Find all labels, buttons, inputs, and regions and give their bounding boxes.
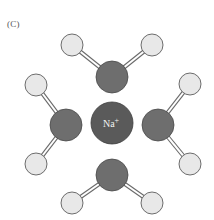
oxygen-atom xyxy=(50,109,82,141)
water-molecule-right xyxy=(142,73,201,175)
ion-charge: + xyxy=(115,116,120,125)
hydrogen-atom xyxy=(179,153,201,175)
hydrogen-atom xyxy=(179,73,201,95)
sodium-ion: Na+ xyxy=(91,102,133,144)
water-molecule-bottom xyxy=(61,159,163,214)
hydrogen-atom xyxy=(61,192,83,214)
hydrogen-atom xyxy=(25,153,47,175)
water-molecule-left xyxy=(25,74,82,175)
hydrogen-atom xyxy=(61,34,83,56)
hydrogen-atom xyxy=(141,34,163,56)
hydrogen-atom xyxy=(25,74,47,96)
oxygen-atom xyxy=(96,61,128,93)
oxygen-atom xyxy=(96,159,128,191)
ion-symbol: Na xyxy=(103,118,115,129)
water-molecule-top xyxy=(61,34,163,93)
hydrogen-atom xyxy=(141,192,163,214)
oxygen-atom xyxy=(142,109,174,141)
hydration-diagram: Na+ xyxy=(0,0,214,220)
